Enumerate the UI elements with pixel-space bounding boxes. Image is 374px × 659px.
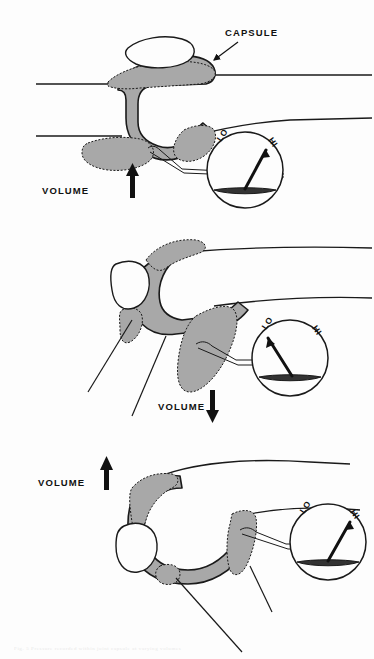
volume-label-3: VOLUME <box>38 477 85 488</box>
capsule-posterior-pad <box>227 511 257 575</box>
volume-arrow-up-3 <box>100 456 113 490</box>
pressure-gauge-1: LO HI <box>207 127 283 208</box>
articular-disc <box>126 37 195 68</box>
ramus-line-right <box>250 566 272 612</box>
pressure-gauge-2: LO HI <box>252 315 328 396</box>
panel-2: LO HI VOLUME <box>0 220 374 430</box>
articular-disc <box>111 261 149 309</box>
panel-1-drawing: CAPSULE LO HI VOLUME <box>0 0 374 220</box>
volume-label-1: VOLUME <box>42 185 89 196</box>
capsule-inferior-pad-left <box>82 137 154 170</box>
pressure-gauge-3: LO HI <box>290 499 366 580</box>
capsule-label: CAPSULE <box>225 27 278 38</box>
panel-3: LO HI VOLUME <box>0 430 374 659</box>
articular-disc <box>116 523 157 572</box>
figure-footnote: Fig. 5 Pressure recorded within joint ca… <box>14 646 366 651</box>
volume-label-2: VOLUME <box>158 401 205 412</box>
capsule-anterior-pad <box>130 474 178 531</box>
panel-1: CAPSULE LO HI VOLUME <box>0 0 374 220</box>
capsule-leader-line <box>214 42 238 60</box>
ramus-line-left <box>176 578 242 652</box>
capsule-superior-pad <box>146 240 205 271</box>
capsule-neck-pad <box>120 308 143 343</box>
figure-container: CAPSULE LO HI VOLUME <box>0 0 374 659</box>
panel-3-drawing: LO HI VOLUME <box>0 430 374 659</box>
panel-2-drawing: LO HI VOLUME <box>0 220 374 430</box>
upper-bone-outline <box>186 247 372 252</box>
volume-arrow-down-2 <box>206 390 219 423</box>
ramus-line-left <box>88 320 132 392</box>
capsule-inferior-pad <box>156 564 180 584</box>
